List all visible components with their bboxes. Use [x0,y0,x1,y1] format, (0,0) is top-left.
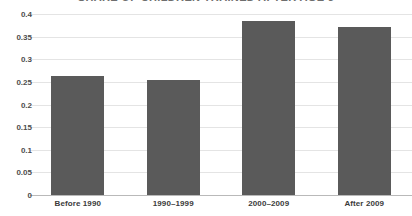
bar [147,80,200,195]
x-axis-tick-label: 1990–1999 [126,199,222,208]
y-axis-tick-label: 0.15 [0,123,32,132]
chart-title: SHARE OF CHILDREN TRAINED AFTER AGE 5 [0,0,412,3]
bar-chart: SHARE OF CHILDREN TRAINED AFTER AGE 5 00… [0,0,412,216]
bar [242,21,295,195]
y-axis-tick-label: 0.3 [0,55,32,64]
y-axis-tick-label: 0 [0,191,32,200]
y-axis-tick-label: 0.35 [0,32,32,41]
gridline [30,14,412,15]
bar [338,27,391,195]
x-axis-tick-label: After 2009 [317,199,412,208]
y-axis-tick-label: 0.05 [0,168,32,177]
y-axis-tick-label: 0.2 [0,100,32,109]
x-axis-line [30,195,412,196]
x-axis-tick-label: 2000–2009 [221,199,317,208]
y-axis-tick-label: 0.4 [0,10,32,19]
y-axis-tick-label: 0.25 [0,77,32,86]
plot-area [30,14,412,195]
x-axis-tick-label: Before 1990 [30,199,126,208]
bar [51,76,104,195]
y-axis-tick-label: 0.1 [0,145,32,154]
